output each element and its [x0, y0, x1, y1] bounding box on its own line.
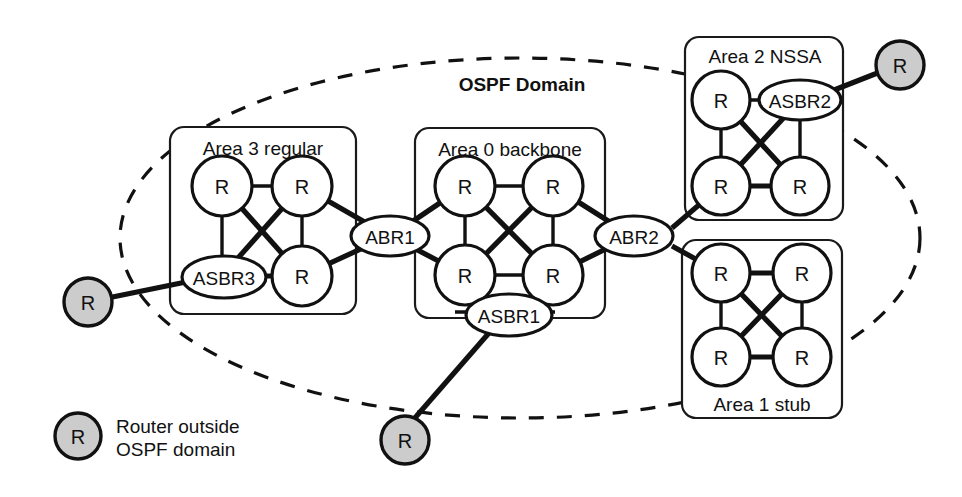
node-area0-router-top-left[interactable]: R [435, 156, 495, 216]
node-label: R [215, 176, 229, 198]
node-abr2[interactable]: ABR2 [595, 216, 673, 256]
node-area1-router-top-left[interactable]: R [692, 244, 750, 302]
legend-line-1: Router outside [116, 416, 240, 437]
node-external-router-left[interactable]: R [64, 278, 112, 326]
node-label: R [714, 347, 728, 369]
node-label: ASBR2 [769, 91, 831, 112]
node-label: R [795, 263, 809, 285]
node-label: R [893, 55, 907, 77]
node-area2-router-top-left[interactable]: R [692, 71, 750, 129]
domain-title: OSPF Domain [459, 74, 586, 95]
node-label: R [398, 430, 412, 452]
node-area3-router-top-left[interactable]: R [192, 156, 252, 216]
node-abr1[interactable]: ABR1 [351, 216, 429, 256]
node-label: ASBR1 [478, 306, 540, 327]
node-area2-asbr2[interactable]: ASBR2 [759, 80, 841, 120]
node-label: R [546, 176, 560, 198]
node-asbr1[interactable]: ASBR1 [466, 294, 552, 336]
node-label: R [458, 176, 472, 198]
node-label: R [795, 347, 809, 369]
legend-line-2: OSPF domain [116, 439, 235, 460]
node-area1-router-top-right[interactable]: R [773, 244, 831, 302]
area-label-area2: Area 2 NSSA [709, 46, 822, 67]
node-area2-router-bottom-left[interactable]: R [692, 157, 750, 215]
node-label: R [714, 90, 728, 112]
node-label: R [546, 265, 560, 287]
legend: R Router outside OSPF domain [55, 413, 240, 460]
node-label: ABR1 [365, 227, 415, 248]
node-external-router-bottom[interactable]: R [381, 416, 429, 464]
ospf-network-diagram: OSPF Domain Area 3 regular Area 0 backbo… [0, 0, 962, 497]
node-area3-router-bottom-right[interactable]: R [272, 246, 332, 306]
legend-symbol-label: R [71, 426, 85, 448]
node-label: ABR2 [609, 227, 659, 248]
node-label: R [793, 176, 807, 198]
node-external-router-top-right[interactable]: R [876, 41, 924, 89]
node-area1-router-bottom-right[interactable]: R [773, 328, 831, 386]
node-label: R [295, 266, 309, 288]
node-label: R [81, 292, 95, 314]
node-label: R [458, 265, 472, 287]
node-area2-router-bottom-right[interactable]: R [771, 157, 829, 215]
node-label: R [295, 176, 309, 198]
node-area0-router-top-right[interactable]: R [523, 156, 583, 216]
area-label-area1: Area 1 stub [713, 394, 810, 415]
node-label: R [714, 263, 728, 285]
node-area3-router-top-right[interactable]: R [272, 156, 332, 216]
node-area3-asbr3[interactable]: ASBR3 [182, 256, 266, 298]
node-area1-router-bottom-left[interactable]: R [692, 328, 750, 386]
node-label: ASBR3 [193, 268, 255, 289]
node-label: R [714, 176, 728, 198]
diagram-canvas: OSPF Domain Area 3 regular Area 0 backbo… [0, 0, 962, 497]
